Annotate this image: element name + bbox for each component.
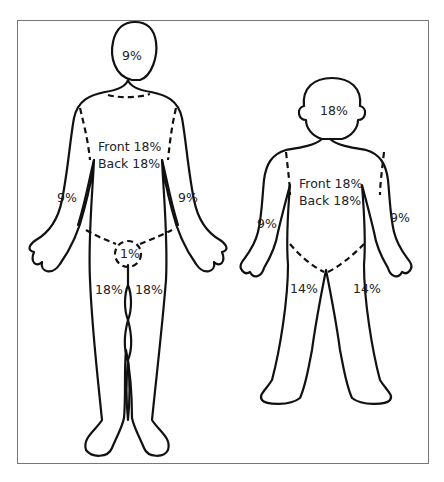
adult-head-percent: 9% <box>122 50 142 63</box>
child-trunk-back-percent: Back 18% <box>299 192 362 209</box>
child-right-leg-percent: 14% <box>353 283 381 296</box>
body-outlines <box>0 0 444 482</box>
adult-genital-percent: 1% <box>120 248 140 261</box>
child-waist-left <box>290 244 324 272</box>
adult-neck-line <box>108 94 150 97</box>
adult-right-leg-percent: 18% <box>135 284 163 297</box>
adult-right-arm-percent: 9% <box>178 192 198 205</box>
adult-left-arm-percent: 9% <box>57 192 77 205</box>
adult-trunk-label: Front 18% Back 18% <box>98 138 161 172</box>
child-left-leg-percent: 14% <box>290 283 318 296</box>
adult-left-leg-percent: 18% <box>95 284 123 297</box>
adult-figure <box>30 22 227 456</box>
adult-left-shoulder-line <box>80 108 90 160</box>
child-trunk-front-percent: Front 18% <box>299 175 362 192</box>
child-trunk-label: Front 18% Back 18% <box>299 175 362 209</box>
child-figure <box>241 78 412 404</box>
child-left-arm-percent: 9% <box>257 218 277 231</box>
adult-trunk-front-percent: Front 18% <box>98 138 161 155</box>
adult-leg-split <box>125 265 131 420</box>
child-right-arm-percent: 9% <box>390 212 410 225</box>
child-waist-right <box>328 244 364 272</box>
adult-right-shoulder-line <box>168 108 176 160</box>
child-head-percent: 18% <box>320 105 348 118</box>
adult-trunk-back-percent: Back 18% <box>98 155 161 172</box>
